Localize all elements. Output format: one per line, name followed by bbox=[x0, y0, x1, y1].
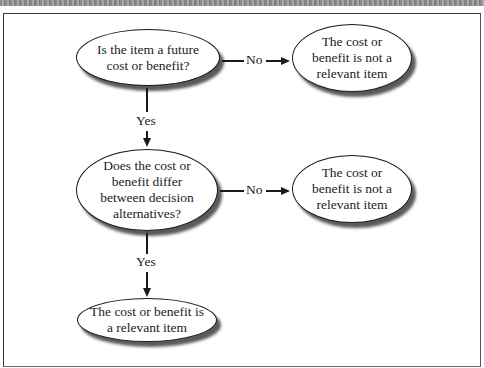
decision-node-differ-alternatives-label: Does the cost or benefit differ between … bbox=[100, 158, 193, 222]
outcome-node-not-relevant-1-label: The cost or benefit is not a relevant it… bbox=[312, 34, 392, 82]
edge-q1-no-line-right bbox=[266, 60, 282, 62]
edge-q2-yes-line-top bbox=[146, 233, 148, 255]
arrow-right-icon bbox=[281, 57, 290, 65]
outcome-node-relevant: The cost or benefit is a relevant item bbox=[77, 298, 217, 342]
edge-q1-yes-label: Yes bbox=[136, 113, 156, 129]
outcome-node-not-relevant-2: The cost or benefit is not a relevant it… bbox=[292, 155, 412, 223]
edge-q1-no-line-left bbox=[222, 60, 244, 62]
edge-q1-yes-line-top bbox=[146, 88, 148, 112]
edge-q2-no-line-left bbox=[220, 190, 244, 192]
outcome-node-not-relevant-1: The cost or benefit is not a relevant it… bbox=[292, 24, 412, 92]
top-texture-strip bbox=[0, 0, 484, 6]
edge-q2-yes-label: Yes bbox=[136, 254, 156, 270]
arrow-right-icon bbox=[281, 187, 290, 195]
outcome-node-relevant-label: The cost or benefit is a relevant item bbox=[90, 304, 204, 336]
edge-q2-yes-line-bottom bbox=[146, 272, 148, 289]
arrow-down-icon bbox=[143, 138, 151, 147]
decision-node-future-cost: Is the item a future cost or benefit? bbox=[76, 29, 220, 86]
decision-node-differ-alternatives: Does the cost or benefit differ between … bbox=[76, 149, 218, 231]
outcome-node-not-relevant-2-label: The cost or benefit is not a relevant it… bbox=[312, 165, 392, 213]
edge-q2-no-line-right bbox=[266, 190, 282, 192]
edge-q1-no-label: No bbox=[246, 52, 263, 68]
arrow-down-icon bbox=[143, 288, 151, 297]
edge-q2-no-label: No bbox=[246, 182, 263, 198]
decision-node-future-cost-label: Is the item a future cost or benefit? bbox=[97, 42, 199, 74]
